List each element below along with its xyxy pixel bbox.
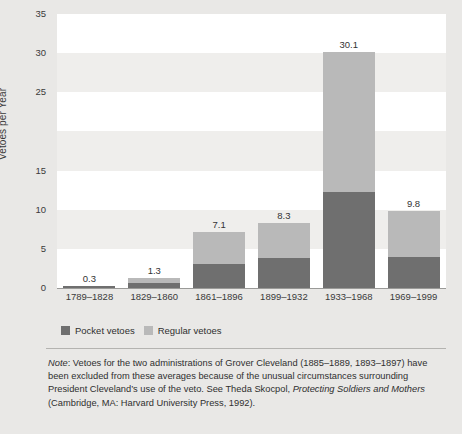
bar-segment-pocket-vetoes[interactable]	[193, 264, 245, 288]
bar-segment-regular-vetoes[interactable]	[388, 211, 440, 256]
plot-area: 0.31.37.18.330.19.8	[57, 14, 446, 288]
figure-note: Note: Vetoes for the two administrations…	[48, 357, 448, 410]
legend-item[interactable]: Pocket vetoes	[61, 325, 135, 336]
legend-swatch-icon	[61, 326, 70, 335]
bar-value-label: 9.8	[407, 198, 420, 209]
chart-figure: Vetoes per Year 051015253035 0.31.37.18.…	[0, 0, 462, 434]
bar-stack[interactable]	[193, 232, 245, 288]
x-axis-tick-label: 1861–1896	[187, 291, 251, 303]
y-axis-tick-label: 35	[35, 9, 46, 19]
bar-slot[interactable]: 9.8	[388, 14, 440, 288]
x-axis-tick-label: 1933–1968	[317, 291, 381, 303]
bars-layer: 0.31.37.18.330.19.8	[57, 14, 446, 288]
x-axis-tick-label: 1829–1860	[122, 291, 186, 303]
bar-slot[interactable]: 0.3	[63, 14, 115, 288]
x-axis-baseline	[57, 288, 446, 289]
bar-value-label: 7.1	[212, 219, 225, 230]
y-axis-tick-label: 15	[35, 166, 46, 176]
bar-segment-regular-vetoes[interactable]	[258, 223, 310, 258]
bar-slot[interactable]: 7.1	[193, 14, 245, 288]
bar-segment-pocket-vetoes[interactable]	[388, 257, 440, 288]
bar-segment-pocket-vetoes[interactable]	[323, 192, 375, 288]
bar-stack[interactable]	[323, 52, 375, 288]
x-axis-tick-label: 1969–1999	[382, 291, 446, 303]
bar-segment-pocket-vetoes[interactable]	[258, 258, 310, 288]
bar-slot[interactable]: 30.1	[323, 14, 375, 288]
note-italic-title: Protecting Soldiers and Mothers	[293, 384, 425, 394]
chart-legend: Pocket vetoesRegular vetoes	[61, 325, 222, 336]
bar-value-label: 1.3	[148, 265, 161, 276]
bar-stack[interactable]	[128, 278, 180, 288]
bar-stack[interactable]	[388, 211, 440, 288]
x-axis-tick-label: 1789–1828	[57, 291, 121, 303]
note-text-part2: (Cambridge, MA: Harvard University Press…	[48, 398, 255, 408]
bar-value-label: 0.3	[83, 273, 96, 284]
x-axis-labels: 1789–18281829–18601861–18961899–19321933…	[57, 291, 446, 303]
y-axis-tick-label: 5	[41, 244, 46, 254]
bar-value-label: 30.1	[339, 39, 358, 50]
note-divider-rule	[46, 348, 446, 349]
legend-label: Pocket vetoes	[75, 325, 135, 336]
y-axis-ticks: 051015253035	[0, 14, 52, 288]
y-axis-tick-label: 30	[35, 48, 46, 58]
bar-value-label: 8.3	[277, 210, 290, 221]
legend-label: Regular vetoes	[158, 325, 222, 336]
bar-stack[interactable]	[258, 223, 310, 288]
legend-item[interactable]: Regular vetoes	[144, 325, 222, 336]
y-axis-tick-label: 0	[41, 283, 46, 293]
bar-segment-regular-vetoes[interactable]	[323, 52, 375, 191]
note-lead: Note	[48, 358, 68, 368]
bar-segment-regular-vetoes[interactable]	[193, 232, 245, 263]
y-axis-tick-label: 10	[35, 205, 46, 215]
x-axis-tick-label: 1899–1932	[252, 291, 316, 303]
y-axis-tick-label: 25	[35, 87, 46, 97]
legend-swatch-icon	[144, 326, 153, 335]
bar-slot[interactable]: 8.3	[258, 14, 310, 288]
bar-slot[interactable]: 1.3	[128, 14, 180, 288]
